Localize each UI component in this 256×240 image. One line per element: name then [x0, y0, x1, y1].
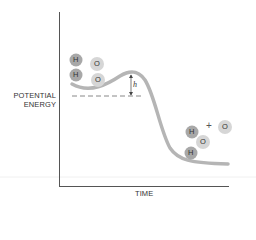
- reactant-atom-label: O: [94, 59, 100, 68]
- product-atom-label: O: [200, 137, 206, 146]
- y-axis-label-line1: POTENTIAL: [13, 91, 56, 100]
- product-atom-label: H: [188, 148, 194, 157]
- x-axis-label: TIME: [135, 189, 153, 198]
- y-axis-label-line2: ENERGY: [24, 100, 56, 109]
- plus-sign: +: [206, 120, 212, 131]
- product-atom-label: H: [189, 127, 195, 136]
- barrier-height-label: h: [133, 80, 137, 89]
- reactant-atom-label: H: [73, 55, 79, 64]
- product-atom-label: O: [222, 122, 228, 131]
- reactant-atom-label: O: [95, 75, 101, 84]
- reactant-atom-label: H: [73, 70, 79, 79]
